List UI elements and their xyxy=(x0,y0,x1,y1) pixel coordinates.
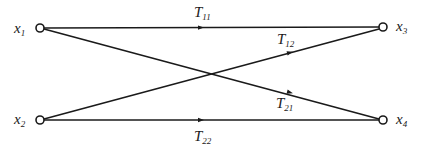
node-x2 xyxy=(36,116,44,124)
edge-label-t11: T11 xyxy=(194,4,211,22)
node-x3 xyxy=(379,23,387,31)
node-x1 xyxy=(36,24,44,32)
edge-label-t12: T12 xyxy=(277,31,295,49)
node-label-x3: x3 xyxy=(395,18,408,36)
node-label-x2: x2 xyxy=(13,111,26,129)
edge-label-t21: T21 xyxy=(276,95,293,113)
edge-label-t22: T22 xyxy=(194,128,212,146)
node-x4 xyxy=(379,116,387,124)
arrow-t22-icon xyxy=(198,118,204,122)
node-label-x4: x4 xyxy=(395,111,408,129)
node-label-x1: x1 xyxy=(13,20,25,38)
signal-flow-graph: x1 x2 x3 x4 T11 T12 T21 T22 xyxy=(0,0,422,153)
arrow-t11-icon xyxy=(198,25,204,29)
edge-t11 xyxy=(44,27,379,28)
